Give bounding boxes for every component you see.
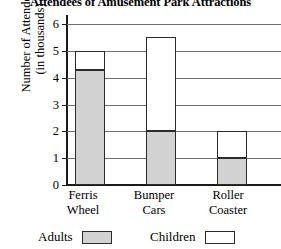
y-tick-label-2: 2 bbox=[53, 125, 59, 137]
y-tick-mark-2 bbox=[62, 131, 67, 132]
x-tick-label-ferris-wheel-line-2: Wheel bbox=[47, 203, 119, 218]
chart-legend: Adults Children bbox=[0, 226, 281, 248]
bar-roller-coaster[interactable] bbox=[217, 131, 247, 185]
y-tick-label-6: 6 bbox=[53, 18, 59, 30]
bar-segment-bumper-cars-children[interactable] bbox=[146, 37, 176, 131]
y-tick-mark-4 bbox=[62, 78, 67, 79]
bar-chart-figure: Attendees of Amusement Park Attractions … bbox=[0, 0, 281, 249]
y-tick-label-5: 5 bbox=[53, 45, 59, 57]
y-tick-mark-0 bbox=[62, 185, 67, 186]
y-tick-label-4: 4 bbox=[53, 72, 59, 84]
bar-segment-roller-coaster-children[interactable] bbox=[217, 131, 247, 158]
x-tick-label-roller-coaster-line-2: Coaster bbox=[189, 203, 267, 218]
y-tick-mark-6 bbox=[62, 24, 67, 25]
bar-segment-bumper-cars-adults[interactable] bbox=[146, 131, 176, 185]
legend-entry-children[interactable]: Children bbox=[150, 226, 235, 248]
bar-ferris-wheel[interactable] bbox=[75, 51, 105, 185]
y-tick-mark-3 bbox=[62, 105, 67, 106]
x-tick-label-ferris-wheel: Ferris Wheel bbox=[47, 188, 119, 218]
plot-area: 6 5 4 3 2 1 0 bbox=[67, 24, 281, 185]
y-tick-mark-1 bbox=[62, 158, 67, 159]
x-tick-label-bumper-cars: Bumper Cars bbox=[118, 188, 190, 218]
bar-segment-ferris-wheel-children[interactable] bbox=[75, 51, 105, 70]
legend-label-children: Children bbox=[150, 230, 196, 244]
y-axis-title-line-1: Number of Attendees bbox=[19, 0, 33, 119]
legend-swatch-children bbox=[205, 231, 235, 244]
legend-swatch-adults bbox=[82, 231, 112, 244]
bar-bumper-cars[interactable] bbox=[146, 37, 176, 185]
y-axis-title-line-2: (in thousands) bbox=[33, 0, 47, 119]
y-tick-label-1: 1 bbox=[53, 152, 59, 164]
x-tick-label-bumper-cars-line-2: Cars bbox=[118, 203, 190, 218]
x-tick-label-bumper-cars-line-1: Bumper bbox=[118, 188, 190, 203]
x-tick-label-roller-coaster-line-1: Roller bbox=[189, 188, 267, 203]
gridline-6: 6 bbox=[67, 24, 281, 25]
y-axis-title: Number of Attendees (in thousands) bbox=[19, 0, 45, 119]
x-tick-label-roller-coaster: Roller Coaster bbox=[189, 188, 267, 218]
y-tick-label-3: 3 bbox=[53, 99, 59, 111]
y-tick-mark-5 bbox=[62, 51, 67, 52]
x-tick-label-ferris-wheel-line-1: Ferris bbox=[47, 188, 119, 203]
bar-segment-roller-coaster-adults[interactable] bbox=[217, 158, 247, 185]
legend-label-adults: Adults bbox=[38, 230, 73, 244]
legend-entry-adults[interactable]: Adults bbox=[38, 226, 112, 248]
bar-segment-ferris-wheel-adults[interactable] bbox=[75, 70, 105, 185]
gridline-0: 0 bbox=[67, 185, 281, 186]
